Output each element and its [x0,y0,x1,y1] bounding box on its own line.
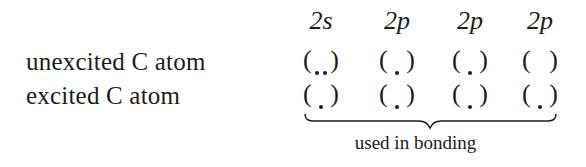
electron-dot [468,71,472,75]
orbital-header-2p-1: 2p [367,6,427,36]
electron-dot [538,105,542,109]
open-paren: ( [522,47,531,73]
close-paren: ) [549,47,558,73]
open-paren: ( [452,47,461,73]
close-paren: ) [549,81,558,107]
electron-dot [395,71,399,75]
underbrace-icon [303,112,558,130]
open-paren: ( [522,81,531,107]
close-paren: ) [406,81,415,107]
close-paren: ) [406,47,415,73]
orbital-header-2p-2: 2p [440,6,500,36]
unexcited-2s-orbital: ( ) [301,50,341,76]
open-paren: ( [379,47,388,73]
open-paren: ( [303,47,312,73]
bonding-caption: used in bonding [293,132,538,154]
open-paren: ( [452,81,461,107]
close-paren: ) [330,81,339,107]
unexcited-2p-orbital-1: ( ) [377,50,417,76]
excited-atom-label: excited C atom [26,82,180,110]
orbital-header-2s: 2s [291,6,351,36]
unexcited-2p-orbital-2: ( ) [450,50,490,76]
electron-dot [468,105,472,109]
unexcited-atom-label: unexcited C atom [26,48,206,76]
open-paren: ( [303,81,312,107]
electron-dot [323,71,327,75]
excited-2p-orbital-3: ( ) [520,84,560,110]
excited-2p-orbital-2: ( ) [450,84,490,110]
close-paren: ) [479,81,488,107]
orbital-header-2p-3: 2p [510,6,570,36]
open-paren: ( [379,81,388,107]
excited-2s-orbital: ( ) [301,84,341,110]
electron-dot [319,105,323,109]
electron-dot [395,105,399,109]
close-paren: ) [330,47,339,73]
excited-2p-orbital-1: ( ) [377,84,417,110]
electron-dot [315,71,319,75]
close-paren: ) [479,47,488,73]
unexcited-2p-orbital-3: ( ) [520,50,560,76]
